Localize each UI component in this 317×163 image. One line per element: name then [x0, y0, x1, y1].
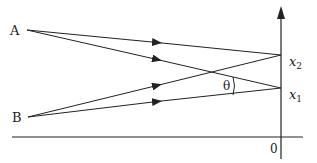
label-A: A — [9, 23, 20, 38]
label-theta: θ — [223, 79, 230, 93]
label-x1-sub: 1 — [296, 94, 302, 104]
ray-B-to-x2 — [28, 55, 281, 117]
label-x2: x2 — [289, 54, 302, 71]
axis-arrow-icon — [277, 6, 285, 19]
angle-arc-icon — [233, 77, 235, 95]
label-x2-sub: 2 — [296, 61, 302, 71]
ray-A-to-x1 — [27, 30, 281, 88]
ray-B-to-x1 — [28, 88, 281, 117]
diagram-canvas: A B x2 x1 θ 0 — [0, 0, 317, 163]
label-origin: 0 — [270, 142, 278, 156]
ray-A-to-x2 — [27, 30, 281, 55]
label-x1: x1 — [289, 87, 302, 104]
label-B: B — [12, 110, 22, 125]
